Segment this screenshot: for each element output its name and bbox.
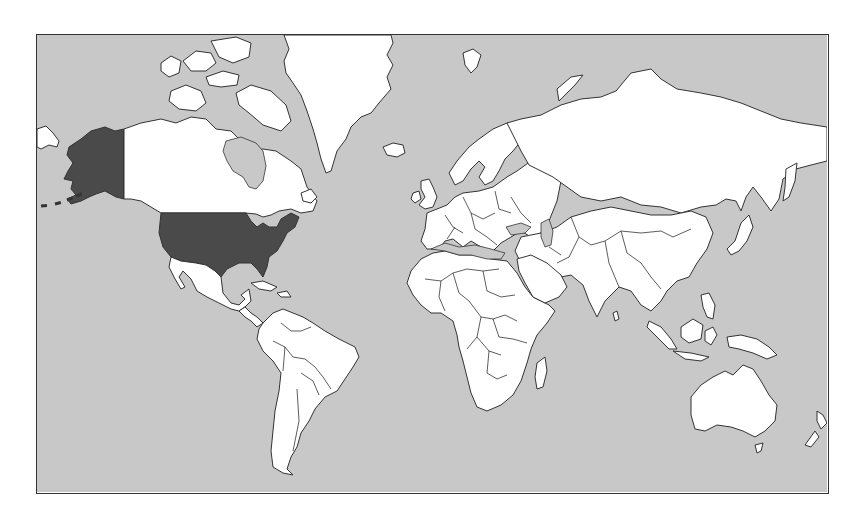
- world-map: [36, 34, 829, 494]
